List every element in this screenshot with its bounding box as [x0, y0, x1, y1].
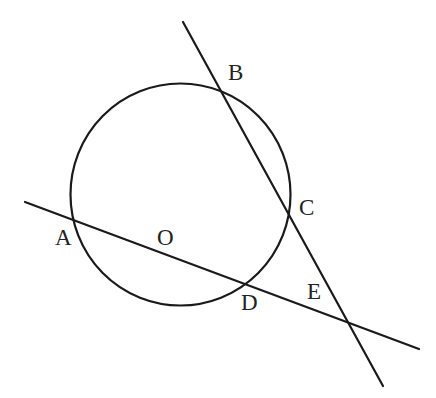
- point-label-e: E: [307, 279, 321, 304]
- point-label-c: C: [299, 195, 314, 220]
- line-ade: [25, 202, 419, 349]
- circle-o: [71, 84, 291, 306]
- line-bce: [183, 22, 383, 386]
- point-label-b: B: [228, 60, 243, 85]
- point-label-o: O: [157, 225, 174, 250]
- point-label-d: D: [241, 290, 258, 315]
- geometry-diagram: A O B C D E: [0, 0, 436, 398]
- point-label-a: A: [55, 225, 72, 250]
